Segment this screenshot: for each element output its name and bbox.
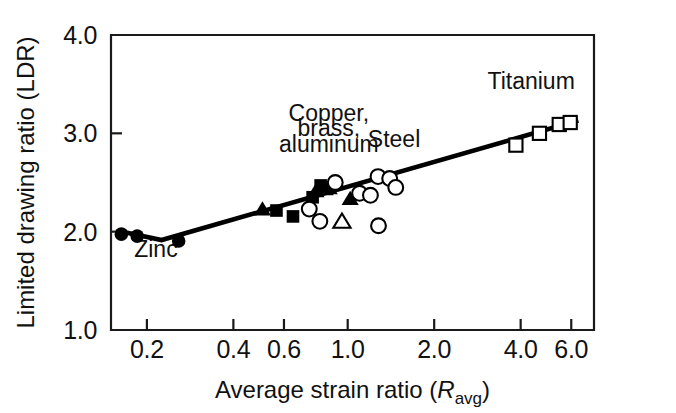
ldr-vs-strain-ratio-chart: Copper,brass,aluminumSteelTitaniumZinc 1… [0, 0, 676, 413]
y-axis-title: Limited drawing ratio (LDR) [12, 36, 39, 328]
data-point-open-circle-5 [371, 218, 386, 233]
chart-page: Copper,brass,aluminumSteelTitaniumZinc 1… [0, 0, 676, 413]
y-tick-label-2.0: 2.0 [63, 218, 97, 246]
data-point-open-triangle-0 [333, 213, 350, 227]
data-point-open-circle-2 [328, 175, 343, 190]
data-point-filled-circle-2 [172, 234, 186, 248]
data-point-filled-circle-0 [115, 227, 129, 241]
data-point-open-circle-4 [388, 180, 403, 195]
data-point-filled-square-0 [270, 204, 283, 217]
data-point-filled-square-1 [287, 210, 300, 223]
y-axis: 1.02.03.04.0 [63, 21, 122, 344]
data-point-open-circle-0 [302, 202, 317, 217]
y-tick-label-4.0: 4.0 [63, 21, 97, 49]
plot-annotations: Copper,brass,aluminumSteelTitaniumZinc [134, 68, 575, 262]
data-point-open-square-1 [533, 127, 546, 140]
annotation-aluminum: aluminum [279, 131, 379, 157]
series-4 [333, 213, 350, 227]
x-axis: 0.20.40.61.02.04.06.0 [130, 319, 588, 363]
data-point-filled-square-3 [314, 179, 327, 192]
data-point-open-circle-1 [363, 188, 378, 203]
data-point-open-square-0 [509, 139, 522, 152]
x-axis-title-main: Average strain ratio ( [215, 376, 437, 403]
x-tick-label-1.0: 1.0 [331, 335, 365, 363]
x-tick-label-0.4: 0.4 [216, 335, 250, 363]
series-5 [352, 169, 403, 233]
x-tick-label-4.0: 4.0 [504, 335, 538, 363]
annotation-steel: Steel [368, 126, 420, 152]
x-tick-label-2.0: 2.0 [417, 335, 451, 363]
annotation-titanium: Titanium [487, 68, 574, 94]
x-axis-title: Average strain ratio (Ravg) [215, 376, 490, 408]
x-tick-label-0.6: 0.6 [267, 335, 301, 363]
data-point-open-circle-1 [312, 214, 327, 229]
x-axis-title-subscript: avg [455, 389, 482, 408]
x-tick-label-0.2: 0.2 [130, 335, 164, 363]
y-tick-label-1.0: 1.0 [63, 316, 97, 344]
series-6 [509, 116, 577, 152]
data-point-open-square-3 [564, 116, 577, 129]
y-tick-label-3.0: 3.0 [63, 119, 97, 147]
x-axis-title-close: ) [482, 376, 490, 403]
data-point-filled-circle-1 [130, 229, 144, 243]
x-axis-title-symbol: R [437, 376, 454, 403]
x-tick-label-6.0: 6.0 [554, 335, 588, 363]
